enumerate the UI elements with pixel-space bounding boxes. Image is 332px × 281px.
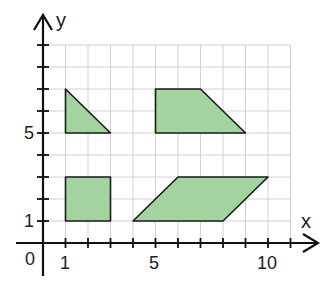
- coordinate-plane: [0, 0, 332, 281]
- x-axis-label: x: [301, 211, 311, 231]
- coordinate-grid-diagram: y x 0 1 5 10 1 5: [0, 0, 332, 281]
- y-tick-label-5: 5: [24, 124, 34, 142]
- y-tick-label-1: 1: [24, 212, 34, 230]
- x-tick-label-10: 10: [257, 254, 277, 272]
- square-shape: [66, 177, 111, 221]
- y-axis-label: y: [56, 10, 66, 30]
- x-tick-label-1: 1: [60, 254, 70, 272]
- x-tick-label-5: 5: [149, 254, 159, 272]
- origin-label: 0: [25, 250, 35, 268]
